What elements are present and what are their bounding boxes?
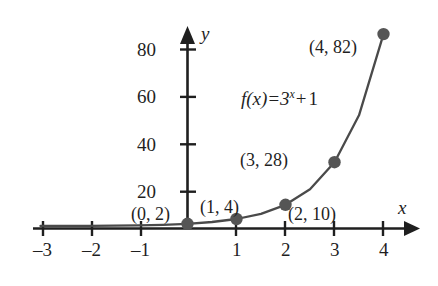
point-label-0-2: (0, 2)	[131, 205, 170, 223]
x-tick-label--2: –2	[82, 240, 101, 259]
y-tick-label-60: 60	[137, 87, 156, 106]
formula-base: 3	[280, 88, 290, 109]
x-tick-label--3: –3	[33, 240, 52, 259]
point-label-1-4: (1, 4)	[200, 198, 239, 216]
x-axis-arrowhead	[404, 221, 420, 236]
point-label-3-28: (3, 28)	[240, 151, 288, 169]
x-tick-label-3: 3	[330, 240, 340, 259]
x-tick-label-1: 1	[232, 240, 242, 259]
data-point-4-82	[377, 28, 389, 40]
data-point-3-28	[328, 156, 340, 168]
y-axis-label: y	[201, 24, 209, 43]
x-tick-label-2: 2	[281, 240, 291, 259]
x-tick-label-4: 4	[379, 240, 389, 259]
data-point-0-2	[181, 218, 193, 230]
exponential-function-graph: 80 60 40 20 –3 –2 –1 1 2 3 4 y x (0, 2) …	[0, 0, 438, 286]
point-label-2-10: (2, 10)	[288, 205, 336, 223]
x-axis-label: x	[398, 198, 406, 217]
y-tick-label-40: 40	[137, 135, 156, 154]
formula-equals: =	[267, 88, 280, 109]
point-label-4-82: (4, 82)	[309, 38, 357, 56]
x-tick-label--1: –1	[131, 240, 150, 259]
y-axis-arrowhead	[180, 26, 195, 44]
y-tick-label-20: 20	[137, 182, 156, 201]
y-tick-label-80: 80	[137, 40, 156, 59]
formula-plus: +	[295, 88, 308, 109]
graph-canvas	[0, 0, 438, 286]
formula-constant: 1	[308, 88, 320, 109]
function-formula: f(x)=3x+1	[241, 89, 319, 108]
formula-prefix: f(x)	[241, 88, 267, 109]
